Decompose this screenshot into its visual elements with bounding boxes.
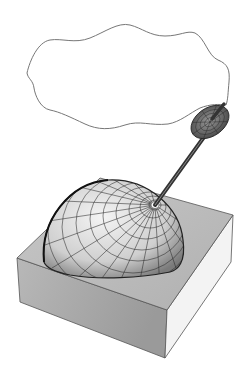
- figure-stage: [0, 0, 247, 377]
- diagram-canvas: [0, 0, 247, 377]
